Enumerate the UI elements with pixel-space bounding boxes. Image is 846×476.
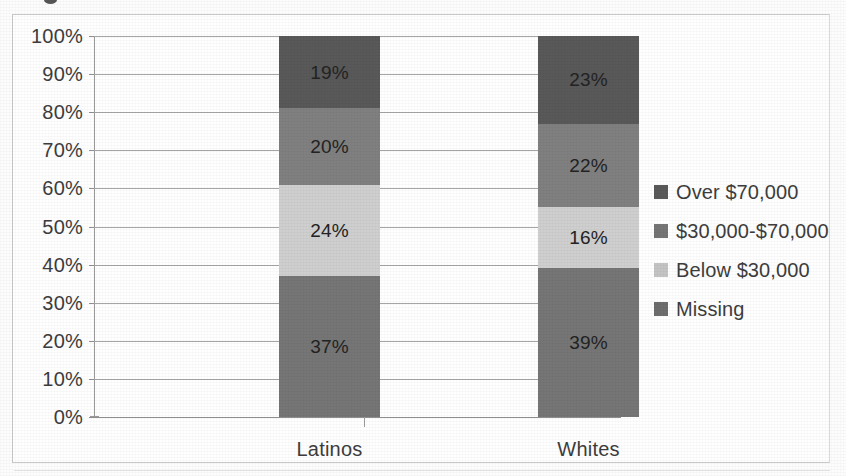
legend-swatch-icon [654, 263, 668, 277]
legend-swatch-icon [654, 185, 668, 199]
legend-item[interactable]: Below $30,000 [654, 250, 834, 289]
y-tick-0 [89, 417, 94, 418]
y-tick-70 [89, 150, 94, 151]
plot-area: 100%90%80%70%60%50%40%30%20%10%0% 37%24%… [94, 36, 621, 417]
bar-segment-label: 37% [310, 337, 349, 356]
legend-item[interactable]: Missing [654, 289, 834, 328]
legend-label: $30,000-$70,000 [676, 221, 829, 241]
bar-segment-label: 24% [310, 221, 349, 240]
bar-segment: 20% [279, 108, 380, 184]
bar-segment: 37% [279, 276, 380, 417]
bar-latinos: 37%24%20%19% [279, 36, 380, 417]
y-axis-label: 60% [42, 178, 83, 198]
bar-segment: 22% [538, 124, 639, 208]
legend-label: Over $70,000 [676, 182, 798, 202]
x-axis-label-whites: Whites [557, 438, 619, 461]
category-separator-tick [364, 417, 365, 427]
y-tick-20 [89, 341, 94, 342]
y-axis-label: 10% [42, 369, 83, 389]
stacked-bar-chart: 100%90%80%70%60%50%40%30%20%10%0% 37%24%… [0, 0, 846, 476]
bar-segment: 19% [279, 36, 380, 108]
legend-swatch-icon [654, 302, 668, 316]
gridline-0 [94, 417, 621, 418]
y-tick-30 [89, 303, 94, 304]
chart-legend: Over $70,000$30,000-$70,000Below $30,000… [654, 172, 834, 328]
bar-segment-label: 22% [569, 156, 608, 175]
y-tick-60 [89, 188, 94, 189]
legend-label: Missing [676, 299, 745, 319]
bar-segment-label: 19% [310, 63, 349, 82]
bar-segment-label: 16% [569, 228, 608, 247]
y-tick-10 [89, 379, 94, 380]
y-axis-label: 90% [42, 64, 83, 84]
y-axis-label: 0% [54, 407, 83, 427]
y-axis-label: 70% [42, 140, 83, 160]
y-axis-label: 50% [42, 217, 83, 237]
legend-item[interactable]: Over $70,000 [654, 172, 834, 211]
bar-segment: 39% [538, 268, 639, 417]
y-tick-40 [89, 265, 94, 266]
bar-segment-label: 23% [569, 70, 608, 89]
y-axis-label: 20% [42, 331, 83, 351]
y-tick-50 [89, 227, 94, 228]
y-tick-90 [89, 74, 94, 75]
bar-segment-label: 20% [310, 137, 349, 156]
x-axis-label-latinos: Latinos [297, 438, 363, 461]
y-axis-label: 80% [42, 102, 83, 122]
y-axis-label: 100% [31, 26, 83, 46]
legend-swatch-icon [654, 224, 668, 238]
bar-segment: 23% [538, 36, 639, 124]
y-tick-100 [89, 36, 94, 37]
bar-segment: 16% [538, 207, 639, 268]
y-tick-80 [89, 112, 94, 113]
bar-segment: 24% [279, 185, 380, 276]
legend-item[interactable]: $30,000-$70,000 [654, 211, 834, 250]
y-axis-label: 40% [42, 255, 83, 275]
scanned-page: 100%90%80%70%60%50%40%30%20%10%0% 37%24%… [0, 0, 846, 476]
legend-label: Below $30,000 [676, 260, 810, 280]
y-axis-label: 30% [42, 293, 83, 313]
bar-whites: 39%16%22%23% [538, 36, 639, 417]
bar-segment-label: 39% [569, 333, 608, 352]
